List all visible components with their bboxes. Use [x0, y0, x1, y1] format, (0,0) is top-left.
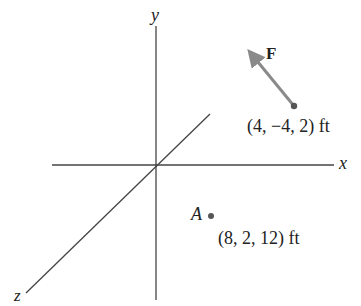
force-tail-coordinates: (4, −4, 2) ft — [247, 117, 330, 135]
z-axis-label: z — [14, 287, 21, 304]
diagram-graphics — [0, 0, 361, 306]
force-tail-dot — [291, 103, 297, 109]
x-axis-label: x — [339, 154, 347, 172]
force-arrow — [253, 56, 294, 106]
force-label: F — [266, 45, 276, 62]
z-axis — [26, 114, 210, 293]
point-a-dot — [208, 213, 214, 219]
point-a-coordinates: (8, 2, 12) ft — [218, 229, 299, 247]
y-axis-label: y — [151, 6, 159, 24]
point-a-label: A — [191, 205, 202, 223]
diagram-canvas: y x z F (4, −4, 2) ft A (8, 2, 12) ft — [0, 0, 361, 306]
